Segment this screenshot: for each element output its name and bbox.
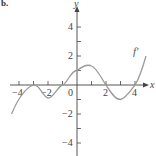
y-tick-label-neg2: −2 [62, 108, 73, 119]
x-axis-label: x [149, 79, 155, 90]
origin-label: 0 [68, 87, 73, 98]
curve-label: f′ [133, 45, 139, 57]
y-tick-label-4: 4 [68, 21, 73, 32]
y-tick-label-neg4: −4 [62, 137, 73, 148]
y-axis-label: y [73, 0, 79, 9]
y-tick-label-2: 2 [68, 50, 73, 61]
x-tick-label-2: 2 [103, 87, 108, 98]
derivative-graph: −4 −2 0 2 4 4 2 −2 −4 x y f′ [0, 0, 156, 156]
x-axis-arrow-icon [143, 83, 149, 88]
